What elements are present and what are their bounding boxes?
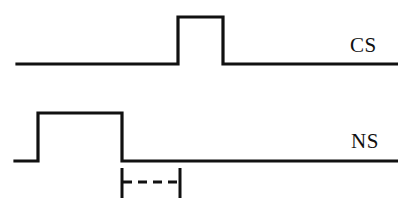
cs-waveform-path [17,17,397,64]
waveform-canvas [0,0,398,205]
ns-waveform-path [15,113,397,161]
cs-trace-label: CS [350,35,377,56]
ns-trace-label: NS [351,131,379,152]
ns-trace [15,113,397,161]
cs-trace [17,17,397,64]
interval-bracket [122,168,180,198]
timing-diagram-figure: CS NS [0,0,398,205]
